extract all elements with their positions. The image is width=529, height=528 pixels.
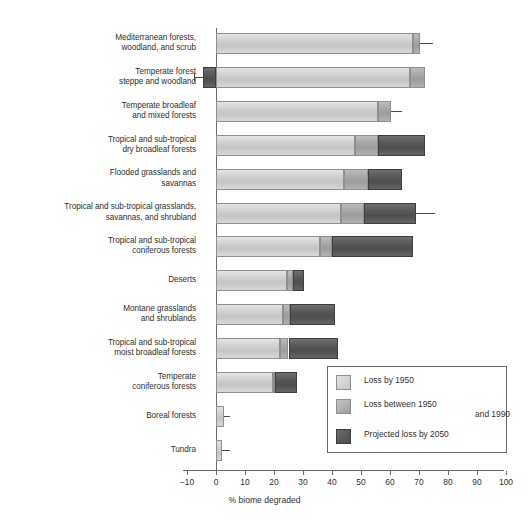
error-bar-cap: [194, 73, 195, 82]
biome-degradation-chart: Mediterranean forests,woodland, and scru…: [0, 0, 529, 528]
bar-segment-3: [368, 169, 401, 190]
bar-segment-1: [216, 101, 378, 122]
bar-segment-3: [275, 372, 297, 393]
x-tick-mark: [216, 471, 217, 475]
x-tick-label: 50: [346, 477, 376, 487]
bar-segment-1: [216, 135, 355, 156]
bar-segment-2: [410, 67, 425, 88]
legend-swatch-icon: [336, 375, 351, 390]
bar-segment-3: [378, 135, 424, 156]
bar-segment-2: [344, 169, 369, 190]
x-tick-label: 30: [288, 477, 318, 487]
x-axis-line: [183, 470, 504, 471]
bar-segment-1: [216, 304, 283, 325]
x-tick-label: 90: [462, 477, 492, 487]
x-tick-mark: [245, 471, 246, 475]
x-tick-mark: [477, 471, 478, 475]
x-tick-mark: [332, 471, 333, 475]
error-bar-line: [194, 77, 203, 78]
bar-segment-3: [332, 236, 413, 257]
bar-segment-1: [216, 338, 280, 359]
bar-row[interactable]: [0, 203, 529, 224]
bar-row[interactable]: [0, 33, 529, 54]
x-tick-label: 40: [317, 477, 347, 487]
x-tick-mark: [303, 471, 304, 475]
bar-segment-2: [413, 33, 420, 54]
legend-label: Projected loss by 2050: [364, 429, 510, 439]
bar-segment-2: [341, 203, 364, 224]
legend-label-line: Loss between 1950: [364, 399, 510, 409]
bar-row[interactable]: [0, 169, 529, 190]
bar-segment-1: [216, 236, 320, 257]
bar-row[interactable]: [0, 67, 529, 88]
bar-segment-1: [216, 372, 273, 393]
bar-segment-1: [216, 169, 344, 190]
bar-segment-1: [216, 203, 341, 224]
legend-label-line: Projected loss by 2050: [364, 429, 510, 439]
x-tick-mark: [361, 471, 362, 475]
bar-segment-3: [290, 304, 335, 325]
bar-segment-1: [216, 270, 287, 291]
bar-segment-2: [280, 338, 289, 359]
bar-row[interactable]: [0, 270, 529, 291]
x-tick-mark: [390, 471, 391, 475]
error-bar-line: [224, 416, 230, 417]
legend-label: Loss by 1950: [364, 375, 510, 385]
x-tick-mark: [506, 471, 507, 475]
x-tick-label: 60: [375, 477, 405, 487]
legend-label: Loss between 1950and 1990: [364, 399, 510, 420]
bar-row[interactable]: [0, 135, 529, 156]
bar-segment-2: [378, 101, 391, 122]
plot-area: Mediterranean forests,woodland, and scru…: [0, 0, 529, 528]
bar-segment-3: [203, 67, 216, 88]
bar-segment-3: [289, 338, 338, 359]
x-tick-label: 80: [433, 477, 463, 487]
bar-segment-1: [216, 67, 410, 88]
x-tick-mark: [274, 471, 275, 475]
x-tick-label: −10: [172, 477, 202, 487]
x-tick-mark: [448, 471, 449, 475]
x-tick-label: 70: [404, 477, 434, 487]
legend: Loss by 1950Loss between 1950and 1990Pro…: [327, 366, 507, 453]
bar-row[interactable]: [0, 338, 529, 359]
error-bar-line: [391, 111, 401, 112]
legend-swatch-icon: [336, 429, 351, 444]
bar-row[interactable]: [0, 304, 529, 325]
x-tick-mark: [419, 471, 420, 475]
bar-segment-1: [216, 33, 413, 54]
x-tick-label: 100: [491, 477, 521, 487]
bar-segment-2: [283, 304, 290, 325]
bar-segment-2: [320, 236, 332, 257]
bar-segment-1: [216, 406, 224, 427]
x-axis-title: % biome degraded: [0, 495, 529, 505]
legend-swatch-icon: [336, 399, 351, 414]
x-tick-label: 20: [259, 477, 289, 487]
bar-segment-3: [293, 270, 305, 291]
x-tick-label: 0: [201, 477, 231, 487]
legend-label-line: and 1990: [364, 409, 510, 419]
bar-segment-2: [355, 135, 378, 156]
error-bar-line: [222, 450, 231, 451]
x-tick-mark: [187, 471, 188, 475]
x-tick-label: 10: [230, 477, 260, 487]
error-bar-line: [416, 213, 435, 214]
bar-row[interactable]: [0, 236, 529, 257]
bar-segment-3: [364, 203, 416, 224]
legend-label-line: Loss by 1950: [364, 375, 510, 385]
bar-row[interactable]: [0, 101, 529, 122]
error-bar-line: [420, 43, 433, 44]
